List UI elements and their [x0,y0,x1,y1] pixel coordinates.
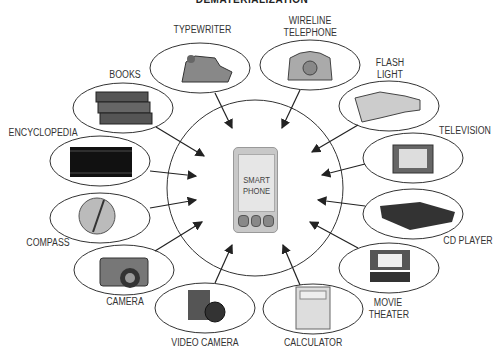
label-wireline-telephone: WIRELINE TELEPHONE [284,15,337,39]
dematerialization-diagram: DEMATERIALIZATION [0,0,504,359]
label-compass: COMPASS [23,237,72,249]
phone-screen: SMART PHONE [238,154,275,212]
label-calculator: CALCULATOR [284,337,342,349]
telephone-icon [288,52,332,81]
smartphone-icon: SMART PHONE [233,147,278,233]
label-typewriter: TYPEWRITER [174,24,227,36]
calculator-icon [296,287,330,329]
books-icon [96,92,152,124]
compass-icon [79,198,115,234]
television-icon [393,145,433,173]
movie-theater-icon [370,250,410,282]
label-cd-player: CD PLAYER [443,235,492,247]
label-camera: CAMERA [103,296,147,308]
phone-buttons [238,215,274,227]
label-encyclopedia: ENCYCLOPEDIA [9,127,76,139]
center-label: SMART PHONE [242,175,272,197]
encyclopedia-icon [70,147,132,177]
center-label-line1: SMART [243,175,270,185]
phone-button [263,215,274,227]
label-television: TELEVISION [436,125,494,137]
center-label-line2: PHONE [243,186,270,196]
phone-button [238,215,249,227]
camera-icon [100,258,148,288]
label-flash-light: FLASH LIGHT [374,57,406,81]
phone-button [251,215,262,227]
label-video-camera: VIDEO CAMERA [170,337,240,349]
label-books: BOOKS [107,69,142,81]
label-movie-theater: MOVIE THEATER [369,297,408,321]
